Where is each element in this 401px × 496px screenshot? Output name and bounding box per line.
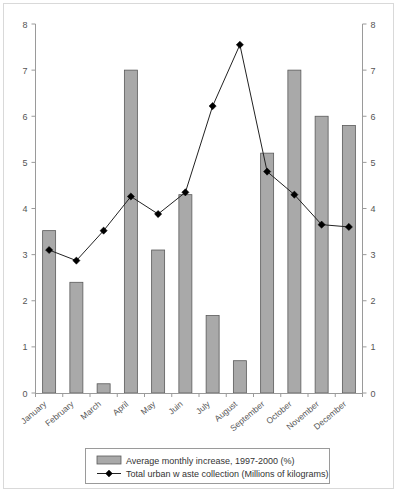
- x-axis-category-label: Juin: [166, 399, 185, 417]
- bar: [315, 116, 328, 393]
- y-tick-label-right: 8: [371, 20, 376, 30]
- x-axis-category-label: May: [139, 398, 158, 416]
- chart-svg: 012345678 012345678 JanuaryFebruaryMarch…: [0, 0, 401, 496]
- chart-container: 012345678 012345678 JanuaryFebruaryMarch…: [0, 0, 401, 496]
- y-tick-label-left: 3: [22, 250, 27, 260]
- bar-series: [43, 70, 356, 393]
- chart-legend: Average monthly increase, 1997-2000 (%) …: [86, 449, 330, 484]
- axis-lines: [36, 24, 363, 394]
- line-path: [49, 45, 349, 261]
- y-tick-label-left: 7: [22, 66, 27, 76]
- bar: [43, 231, 56, 393]
- y-tick-label-right: 4: [371, 204, 376, 214]
- x-axis-category-label: February: [43, 398, 76, 428]
- y-tick-label-right: 0: [371, 389, 376, 399]
- y-tick-label-right: 2: [371, 296, 376, 306]
- bar: [152, 250, 165, 393]
- y-tick-label-left: 8: [22, 20, 27, 30]
- bar: [179, 195, 192, 393]
- legend-diamond-icon: [106, 470, 113, 477]
- bar: [70, 282, 83, 393]
- y-tick-label-right: 5: [371, 158, 376, 168]
- y-axis-right-ticks: 012345678: [363, 20, 376, 399]
- legend-item-label-1: Total urban w aste collection (Millions …: [126, 469, 329, 479]
- y-tick-label-left: 0: [22, 389, 27, 399]
- legend-swatch-bar-icon: [97, 456, 121, 464]
- y-tick-label-right: 7: [371, 66, 376, 76]
- bar: [124, 70, 137, 393]
- bar: [233, 361, 246, 393]
- x-axis-category-label: April: [111, 399, 131, 418]
- y-tick-label-right: 1: [371, 342, 376, 352]
- bar: [288, 70, 301, 393]
- y-tick-label-right: 3: [371, 250, 376, 260]
- bar: [342, 125, 355, 393]
- bar: [97, 384, 110, 393]
- y-tick-label-left: 1: [22, 342, 27, 352]
- bar: [261, 153, 274, 393]
- y-tick-label-left: 5: [22, 158, 27, 168]
- line-marker-diamond: [236, 41, 243, 48]
- x-axis-category-label: July: [194, 398, 213, 416]
- y-tick-label-right: 6: [371, 112, 376, 122]
- legend-item-label-0: Average monthly increase, 1997-2000 (%): [126, 456, 294, 466]
- line-markers: [46, 41, 353, 264]
- y-tick-label-left: 4: [22, 204, 27, 214]
- line-marker-diamond: [209, 103, 216, 110]
- y-tick-label-left: 2: [22, 296, 27, 306]
- x-axis-labels: JanuaryFebruaryMarchAprilMayJuinJulyAugu…: [19, 398, 348, 433]
- line-series: [49, 45, 349, 261]
- x-axis-category-label: March: [78, 399, 103, 422]
- y-tick-label-left: 6: [22, 112, 27, 122]
- y-axis-left-ticks: 012345678: [22, 20, 35, 399]
- bar: [206, 316, 219, 393]
